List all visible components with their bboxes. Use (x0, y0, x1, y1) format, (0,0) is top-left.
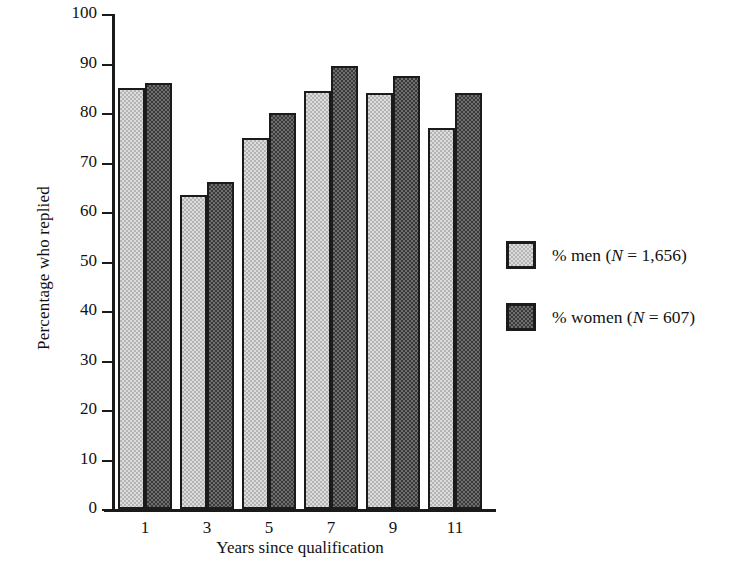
plot-area: 0102030405060708090100 1357911 (114, 14, 486, 509)
y-axis-tick-label: 0 (89, 498, 98, 518)
bar-men-5 (242, 138, 269, 509)
x-axis-tick-label: 1 (118, 518, 172, 538)
bar-women-7 (331, 66, 358, 509)
y-axis-tick-label: 80 (80, 102, 97, 122)
bar-men-7 (304, 91, 331, 509)
y-axis-tick-label: 40 (80, 300, 97, 320)
y-axis-line (112, 14, 115, 511)
legend-item-label: % men (N = 1,656) (552, 245, 687, 266)
x-axis-title: Years since qualification (114, 538, 486, 558)
y-axis-tick: 50 (102, 262, 112, 264)
bar-women-11 (455, 93, 482, 509)
y-axis-tick: 20 (102, 410, 112, 412)
light-checker-swatch (506, 241, 536, 269)
y-axis-tick-label: 10 (80, 449, 97, 469)
x-axis-tick-label: 7 (304, 518, 358, 538)
chart-legend: % men (N = 1,656)% women (N = 607) (506, 224, 752, 348)
bar-chart-figure: Percentage who replied 01020304050607080… (0, 0, 752, 586)
bar-men-1 (118, 88, 145, 509)
y-axis-tick: 60 (102, 212, 112, 214)
x-axis-line (104, 509, 496, 512)
bar-women-1 (145, 83, 172, 509)
y-axis-tick: 40 (102, 311, 112, 313)
bar-men-11 (428, 128, 455, 509)
legend-symbol-n: N (611, 245, 623, 265)
x-axis-tick-label: 5 (242, 518, 296, 538)
bar-women-5 (269, 113, 296, 509)
y-axis-tick: 30 (102, 361, 112, 363)
y-axis-tick: 90 (102, 64, 112, 66)
y-axis-tick-label: 90 (80, 53, 97, 73)
legend-item-label: % women (N = 607) (552, 307, 695, 328)
y-axis-title: Percentage who replied (34, 128, 54, 408)
y-axis-tick: 0 (102, 509, 112, 511)
dark-checker-swatch (506, 303, 536, 331)
legend-item-men: % men (N = 1,656) (506, 224, 752, 286)
bar-women-9 (393, 76, 420, 509)
y-axis-tick-label: 30 (80, 350, 97, 370)
x-axis-tick-label: 9 (366, 518, 420, 538)
bar-men-9 (366, 93, 393, 509)
y-axis-tick-label: 70 (80, 152, 97, 172)
bar-men-3 (180, 195, 207, 509)
y-axis-tick-label: 100 (72, 3, 98, 23)
y-axis-tick-label: 60 (80, 201, 97, 221)
y-axis-tick: 100 (102, 14, 112, 16)
x-axis-tick-label: 3 (180, 518, 234, 538)
legend-item-women: % women (N = 607) (506, 286, 752, 348)
x-axis-tick-label: 11 (428, 518, 482, 538)
y-axis-tick: 80 (102, 113, 112, 115)
y-axis-tick: 70 (102, 163, 112, 165)
y-axis-tick-label: 20 (80, 399, 97, 419)
bar-women-3 (207, 182, 234, 509)
legend-symbol-n: N (633, 307, 645, 327)
y-axis-tick-label: 50 (80, 251, 97, 271)
y-axis-tick: 10 (102, 460, 112, 462)
